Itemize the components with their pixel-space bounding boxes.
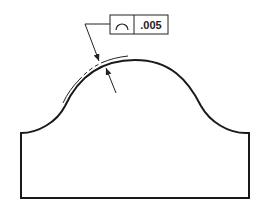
outer-leader-line — [85, 24, 110, 61]
tolerance-zone — [63, 56, 128, 103]
tolerance-value: .005 — [140, 19, 161, 31]
feature-control-frame: .005 — [110, 15, 168, 34]
part-outline — [21, 60, 249, 198]
drawing-canvas: .005 — [0, 0, 264, 215]
inner-leader-line — [106, 68, 116, 93]
tolerance-zone-solid-lower — [63, 80, 79, 103]
tolerance-zone-dashed-middle — [79, 63, 101, 80]
